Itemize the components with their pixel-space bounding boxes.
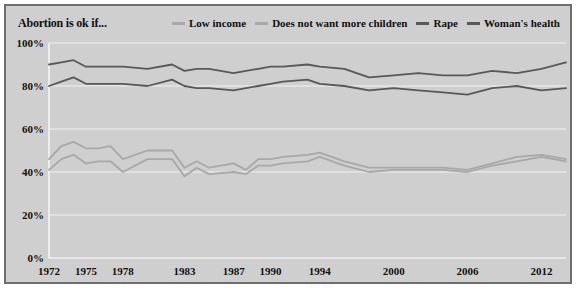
data-series-group [49, 60, 566, 176]
y-tick-label-100: 100% [17, 37, 45, 49]
y-tick-label-40: 40% [22, 166, 44, 178]
y-tick-label-20: 20% [22, 209, 44, 221]
x-tick-label-1990: 1990 [260, 265, 283, 277]
x-tick-label-1987: 1987 [223, 265, 246, 277]
y-tick-label-60: 60% [22, 123, 44, 135]
y-tick-label-0: 0% [28, 252, 45, 264]
y-tick-label-80: 80% [22, 80, 44, 92]
x-tick-label-1983: 1983 [173, 265, 196, 277]
x-tick-label-1975: 1975 [75, 265, 98, 277]
x-tick-label-2000: 2000 [383, 265, 406, 277]
x-tick-label-1994: 1994 [309, 265, 332, 277]
x-tick-label-2006: 2006 [457, 265, 480, 277]
chart-frame: Abortion is ok if... Low income Does not… [4, 4, 572, 284]
plot-area: 0%20%40%60%80%100% 197219751978198319871… [6, 6, 574, 286]
x-tick-label-1978: 1978 [112, 265, 135, 277]
x-axis-tick-labels: 1972197519781983198719901994200020062012 [38, 265, 553, 277]
line-chart: 0%20%40%60%80%100% 197219751978198319871… [6, 6, 574, 286]
series-line-woman-s-health [49, 60, 566, 77]
gridlines [49, 43, 566, 258]
y-axis-tick-labels: 0%20%40%60%80%100% [17, 37, 45, 264]
x-tick-label-2012: 2012 [530, 265, 553, 277]
x-tick-label-1972: 1972 [38, 265, 61, 277]
